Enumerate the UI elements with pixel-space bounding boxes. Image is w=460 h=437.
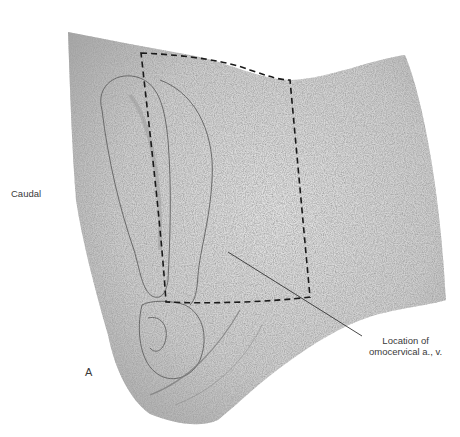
orientation-label-caudal: Caudal — [11, 188, 41, 199]
callout-label-omocervical: Location of omocervical a., v. — [369, 335, 442, 357]
anatomical-illustration — [0, 0, 460, 437]
panel-label: A — [85, 367, 92, 378]
body-silhouette — [68, 32, 446, 424]
callout-line-1: Location of — [369, 335, 442, 346]
callout-line-2: omocervical a., v. — [369, 346, 442, 357]
